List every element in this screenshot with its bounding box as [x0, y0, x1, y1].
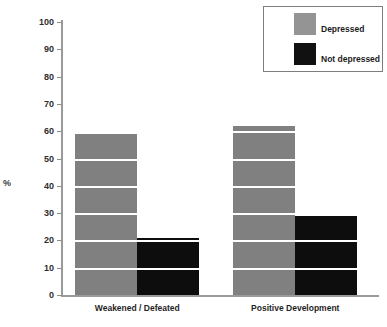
bar-depressed-1 [233, 126, 295, 295]
y-axis-tick-70: 70 [20, 99, 54, 109]
y-axis-tick-mark [57, 186, 62, 187]
y-axis-tick-mark [57, 295, 62, 296]
y-axis-tick-mark [57, 49, 62, 50]
y-axis-tick-90: 90 [20, 44, 54, 54]
y-axis-tick-mark [57, 240, 62, 241]
y-axis-tick-20: 20 [20, 235, 54, 245]
y-axis-title: % [3, 178, 11, 188]
legend-label: Not depressed [321, 54, 380, 64]
y-axis-tick-40: 40 [20, 181, 54, 191]
bar-chart: % 0102030405060708090100 Weakened / Defe… [0, 0, 387, 327]
bar-not-depressed-0 [137, 238, 199, 295]
y-axis-tick-50: 50 [20, 154, 54, 164]
gridline-70 [63, 104, 379, 106]
y-axis-tick-mark [57, 22, 62, 23]
y-axis-tick-10: 10 [20, 263, 54, 273]
x-axis-label-0: Weakened / Defeated [95, 303, 180, 313]
y-axis-tick-labels: 0102030405060708090100 [18, 0, 54, 327]
legend-item-not-depressed: Not depressed [264, 41, 382, 69]
y-axis-tick-mark [57, 104, 62, 105]
bar-depressed-0 [75, 134, 137, 295]
bar-not-depressed-1 [295, 216, 357, 295]
legend: DepressedNot depressed [263, 6, 383, 72]
y-axis-tick-30: 30 [20, 208, 54, 218]
y-axis-tick-mark [57, 131, 62, 132]
y-axis-tick-60: 60 [20, 126, 54, 136]
legend-label: Depressed [321, 24, 364, 34]
y-axis-tick-mark [57, 213, 62, 214]
y-axis-tick-mark [57, 77, 62, 78]
y-axis-tick-mark [57, 159, 62, 160]
x-axis-line [61, 295, 379, 297]
legend-swatch-icon [294, 13, 316, 35]
legend-item-depressed: Depressed [264, 11, 382, 39]
gridline-80 [63, 77, 379, 79]
gridline-60 [63, 131, 379, 133]
legend-swatch-icon [294, 43, 316, 65]
y-axis-tick-80: 80 [20, 72, 54, 82]
y-axis-tick-0: 0 [20, 290, 54, 300]
x-axis-label-1: Positive Development [251, 303, 339, 313]
y-axis-tick-100: 100 [20, 17, 54, 27]
y-axis-tick-mark [57, 268, 62, 269]
